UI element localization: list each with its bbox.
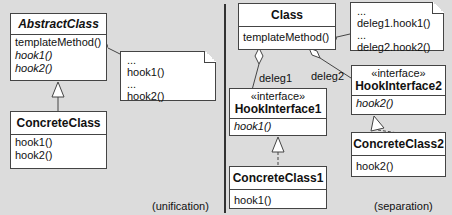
note-line: hook2() xyxy=(127,90,209,102)
separation-caption: (separation) xyxy=(374,200,433,212)
unification-caption: (unification) xyxy=(152,200,209,212)
method-hook2: hook2() xyxy=(15,149,102,162)
hook-interface2-header: «interface» HookInterface2 xyxy=(352,66,445,96)
hook-interface1-header: «interface» HookInterface1 xyxy=(230,89,326,119)
concrete-class2-box: ConcreteClass2 hook2() xyxy=(351,132,446,177)
note-line: hook1() xyxy=(127,66,209,78)
separation-note: ... deleg1.hook1() ... deleg2.hook2() xyxy=(350,2,444,51)
hook-interface2-name: HookInterface2 xyxy=(355,79,442,93)
note-line: deleg1.hook1() xyxy=(357,17,437,29)
deleg2-label: deleg2 xyxy=(311,70,344,82)
class-name: Class xyxy=(239,4,335,27)
hook-interface1-box: «interface» HookInterface1 hook1() xyxy=(229,88,327,136)
concrete-class-box: ConcreteClass hook1() hook2() xyxy=(10,111,107,169)
concrete-class2-name: ConcreteClass2 xyxy=(352,133,445,156)
concrete-class1-box: ConcreteClass1 hook1() xyxy=(229,166,327,209)
abstract-class-name: AbstractClass xyxy=(11,14,106,35)
method-template: templateMethod() xyxy=(243,31,331,44)
unification-note: ... hook1() ... hook2() xyxy=(120,51,216,101)
note-line: deleg2.hook2() xyxy=(357,41,437,53)
abstract-class-box: AbstractClass templateMethod() hook1() h… xyxy=(10,13,107,81)
method-hook2: hook2() xyxy=(15,62,102,75)
method-hook1: hook1() xyxy=(230,190,326,208)
hook-interface1-name: HookInterface1 xyxy=(235,102,322,116)
deleg1-label: deleg1 xyxy=(259,72,292,84)
method-template: templateMethod() xyxy=(15,36,102,49)
class-box: Class templateMethod() xyxy=(238,3,336,50)
method-hook2: hook2() xyxy=(352,156,445,174)
stereotype: «interface» xyxy=(230,90,326,102)
method-hook1: hook1() xyxy=(15,136,102,149)
method-hook1: hook1() xyxy=(15,49,102,62)
method-hook2: hook2() xyxy=(352,96,445,111)
concrete-class1-name: ConcreteClass1 xyxy=(230,167,326,190)
note-fold-icon xyxy=(204,51,216,63)
note-fold-icon xyxy=(432,2,444,14)
note-line: ... xyxy=(357,29,437,41)
note-line: ... xyxy=(127,78,209,90)
note-line: ... xyxy=(357,5,437,17)
hook-interface2-box: «interface» HookInterface2 hook2() xyxy=(351,65,446,115)
stereotype: «interface» xyxy=(352,67,445,79)
note-line: ... xyxy=(127,54,209,66)
method-hook1: hook1() xyxy=(230,119,326,134)
concrete-class-name: ConcreteClass xyxy=(11,112,106,135)
